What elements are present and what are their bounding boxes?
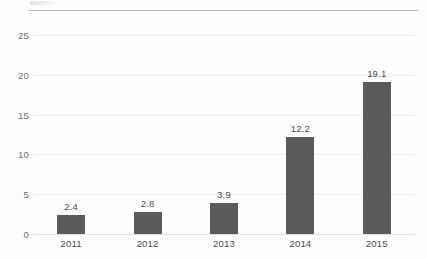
bar-value-label: 12.2 (291, 123, 310, 134)
y-axis-tick-label: 20 (5, 69, 29, 80)
bar[interactable] (210, 203, 238, 234)
bar-group: 3.9 (186, 20, 262, 234)
x-axis-tick-label: 2012 (137, 238, 159, 249)
y-axis-tick-label: 0 (5, 229, 29, 240)
x-axis: 20112012201320142015 (33, 238, 415, 256)
bar-group: 2.4 (33, 20, 109, 234)
cropped-text-artifact (30, 1, 56, 5)
bar-chart: 0510152025 2.42.83.912.219.1 20112012201… (0, 0, 427, 259)
bar-group: 12.2 (262, 20, 338, 234)
x-axis-tick-label: 2011 (61, 238, 82, 249)
bar[interactable] (286, 137, 314, 234)
bar-group: 2.8 (109, 20, 185, 234)
bar[interactable] (57, 215, 85, 234)
chart-top-rule (28, 10, 418, 11)
x-axis-tick-label: 2014 (289, 238, 311, 249)
bar-group: 19.1 (339, 20, 415, 234)
bar-value-label: 3.9 (217, 189, 231, 200)
bar[interactable] (134, 212, 162, 234)
bar[interactable] (363, 82, 391, 234)
x-axis-tick-label: 2013 (213, 238, 235, 249)
bar-value-label: 19.1 (367, 68, 386, 79)
bars-layer: 2.42.83.912.219.1 (33, 20, 415, 234)
y-axis-tick-label: 5 (5, 189, 29, 200)
bar-value-label: 2.8 (141, 198, 155, 209)
bar-value-label: 2.4 (64, 201, 78, 212)
y-axis-tick-label: 25 (5, 30, 29, 41)
axis-baseline (33, 234, 415, 235)
x-axis-tick-label: 2015 (366, 238, 388, 249)
y-axis-tick-label: 15 (5, 109, 29, 120)
y-axis: 0510152025 (0, 20, 29, 234)
y-axis-tick-label: 10 (5, 149, 29, 160)
